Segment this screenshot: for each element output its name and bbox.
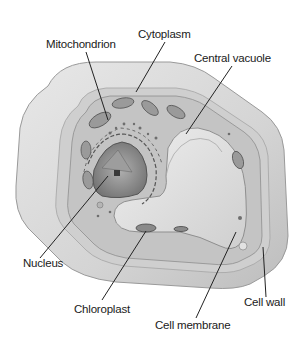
label-cytoplasm: Cytoplasm xyxy=(138,28,191,40)
label-cell-wall: Cell wall xyxy=(244,296,285,308)
label-central-vacuole: Central vacuole xyxy=(194,52,271,64)
label-mitochondrion: Mitochondrion xyxy=(46,38,116,50)
label-cell-membrane: Cell membrane xyxy=(155,319,230,331)
membrane-vesicle xyxy=(239,242,247,250)
label-nucleus: Nucleus xyxy=(23,257,64,269)
label-chloroplast: Chloroplast xyxy=(74,303,131,315)
plant-cell-diagram: Mitochondrion Cytoplasm Central vacuole … xyxy=(0,0,302,341)
